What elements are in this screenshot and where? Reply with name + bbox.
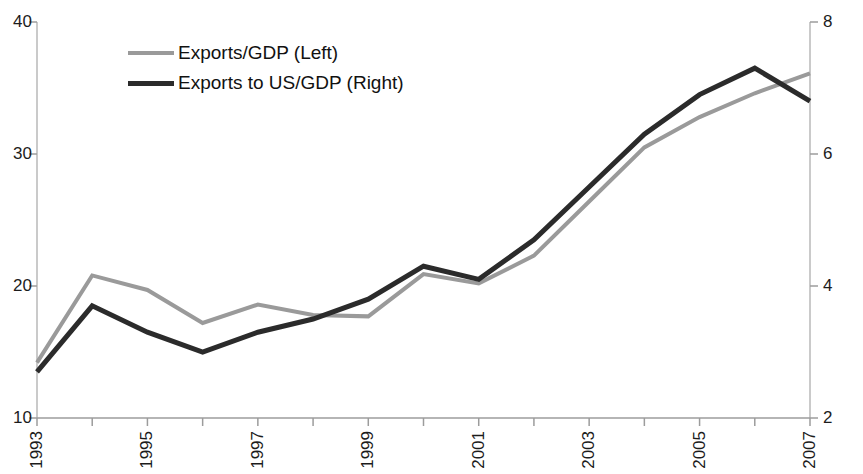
x-axis-tick-label: 1999: [359, 431, 376, 469]
left-axis-tick-label: 10: [0, 409, 32, 426]
left-axis-ticks: [29, 22, 37, 418]
legend-label-exports-to-us-gdp: Exports to US/GDP (Right): [178, 72, 404, 94]
legend-swatch-exports-gdp: [128, 51, 174, 55]
x-axis-tick-label: 2007: [801, 431, 818, 469]
legend-label-exports-gdp: Exports/GDP (Left): [178, 42, 338, 64]
right-axis-tick-label: 8: [823, 13, 855, 30]
legend-item-exports-to-us-gdp: Exports to US/GDP (Right): [128, 68, 548, 98]
right-axis-tick-label: 2: [823, 409, 855, 426]
series-line: [37, 73, 810, 362]
right-axis-tick-label: 4: [823, 277, 855, 294]
x-axis-tick-label: 2003: [580, 431, 597, 469]
series-lines: [37, 68, 810, 372]
right-axis-tick-label: 6: [823, 145, 855, 162]
left-axis-tick-label: 20: [0, 277, 32, 294]
chart-container: 10203040 2468 19931995199719992001200320…: [0, 0, 863, 474]
series-line: [37, 68, 810, 372]
right-axis-ticks: [810, 22, 818, 418]
chart-legend: Exports/GDP (Left) Exports to US/GDP (Ri…: [128, 38, 548, 98]
legend-item-exports-gdp: Exports/GDP (Left): [128, 38, 548, 68]
x-axis-tick-label: 1993: [28, 431, 45, 469]
x-axis-ticks: [37, 418, 810, 426]
x-axis-tick-label: 2001: [470, 431, 487, 469]
left-axis-tick-label: 30: [0, 145, 32, 162]
x-axis-tick-label: 2005: [691, 431, 708, 469]
legend-swatch-exports-to-us-gdp: [128, 81, 174, 86]
x-axis-tick-label: 1995: [138, 431, 155, 469]
left-axis-tick-label: 40: [0, 13, 32, 30]
x-axis-tick-label: 1997: [249, 431, 266, 469]
